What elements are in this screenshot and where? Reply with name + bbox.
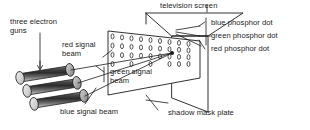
label-green-signal-beam: green signal beam <box>110 67 152 85</box>
label-television-screen: television screen <box>160 1 217 10</box>
label-blue-signal-beam: blue signal beam <box>60 107 118 116</box>
electron-guns <box>15 63 89 111</box>
beam-convergence-point <box>170 51 174 55</box>
label-shadow-mask-plate: shadow mask plate <box>168 108 234 117</box>
leader-blue-dot <box>199 22 205 26</box>
label-red-phosphor-dot: red phosphor dot <box>211 44 269 53</box>
leader-electron-guns-arrow <box>38 61 43 70</box>
leader-green-beam <box>96 66 104 72</box>
label-three-electron-guns: three electron guns <box>10 17 57 35</box>
label-blue-phosphor-dot: blue phosphor dot <box>211 18 273 27</box>
leader-shadow-mask-stem <box>146 100 168 103</box>
leader-shadow-mask <box>146 95 158 110</box>
label-red-signal-beam: red signal beam <box>62 40 95 58</box>
tv-shadow-mask-diagram: three electron guns red signal beam gree… <box>0 0 310 130</box>
label-green-phosphor-dot: green phosphor dot <box>211 31 278 40</box>
